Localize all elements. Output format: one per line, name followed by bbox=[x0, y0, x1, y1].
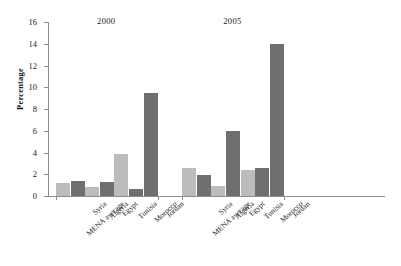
y-tick-16: 16 bbox=[44, 22, 48, 23]
x-axis-line bbox=[48, 196, 385, 197]
bar-2005-syria bbox=[197, 175, 211, 196]
x-tick bbox=[158, 196, 159, 200]
y-tick-label-2: 2 bbox=[33, 170, 37, 179]
x-tick bbox=[56, 196, 57, 200]
y-tick-label-14: 14 bbox=[29, 40, 38, 49]
bar-2005-egypt bbox=[226, 131, 240, 196]
group-title-2000: 2000 bbox=[97, 16, 115, 26]
y-tick-label-8: 8 bbox=[33, 105, 37, 114]
bar-2000-mena-average bbox=[56, 183, 70, 196]
group-title-2005: 2005 bbox=[223, 16, 241, 26]
bar-2005-jordan bbox=[270, 44, 284, 196]
bar-2000-tunisia bbox=[114, 154, 128, 196]
bar-2000-syria bbox=[71, 181, 85, 196]
y-tick-label-0: 0 bbox=[33, 192, 37, 201]
x-tick bbox=[284, 196, 285, 200]
y-tick-label-10: 10 bbox=[29, 83, 38, 92]
y-tick-4: 4 bbox=[44, 153, 48, 154]
y-tick-0: 0 bbox=[44, 196, 48, 197]
plot-area: 1614121086420 bbox=[48, 22, 385, 196]
y-tick-label-4: 4 bbox=[33, 148, 37, 157]
y-tick-8: 8 bbox=[44, 109, 48, 110]
bar-2005-algeria bbox=[211, 186, 225, 196]
y-axis-label: Percentage bbox=[15, 49, 25, 129]
bar-2005-mena-average bbox=[182, 168, 196, 196]
bar-2000-jordan bbox=[144, 93, 158, 196]
bar-2000-egypt bbox=[100, 182, 114, 196]
y-tick-14: 14 bbox=[44, 44, 48, 45]
bar-2000-algeria bbox=[85, 187, 99, 196]
y-tick-10: 10 bbox=[44, 87, 48, 88]
y-tick-12: 12 bbox=[44, 66, 48, 67]
x-tick bbox=[182, 196, 183, 200]
y-tick-label-12: 12 bbox=[29, 61, 38, 70]
y-tick-6: 6 bbox=[44, 131, 48, 132]
y-tick-2: 2 bbox=[44, 174, 48, 175]
y-tick-label-6: 6 bbox=[33, 127, 37, 136]
y-axis-line bbox=[48, 22, 49, 196]
bar-chart: Percentage 1614121086420 20002005 MENA a… bbox=[0, 0, 401, 266]
bar-2005-tunisia bbox=[241, 170, 255, 196]
bar-2000-morocco bbox=[129, 189, 143, 196]
bar-2005-morocco bbox=[255, 168, 269, 196]
y-tick-label-16: 16 bbox=[29, 18, 38, 27]
